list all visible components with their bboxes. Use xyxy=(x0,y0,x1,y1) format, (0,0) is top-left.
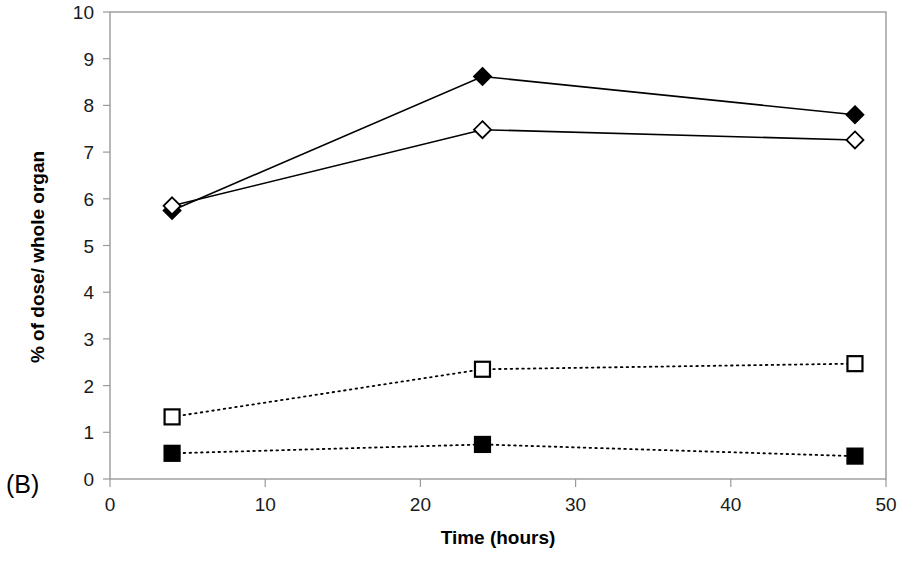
y-tick-label: 8 xyxy=(83,95,94,116)
y-tick-label: 10 xyxy=(73,2,94,23)
x-tick-label: 30 xyxy=(565,494,586,515)
marker-diamond-filled xyxy=(846,106,863,123)
marker-square-filled xyxy=(165,446,180,461)
series-line-open-square xyxy=(172,364,855,417)
series-line-open-diamond xyxy=(172,130,855,206)
marker-square-open xyxy=(847,356,862,371)
chart-figure: 01234567891001020304050 % of dose/ whole… xyxy=(0,0,908,576)
series-line-filled-square xyxy=(172,444,855,456)
y-tick-label: 0 xyxy=(83,469,94,490)
marker-square-filled xyxy=(475,437,490,452)
series-line-filled-diamond xyxy=(172,76,855,210)
marker-diamond-filled xyxy=(474,68,491,85)
x-tick-label: 50 xyxy=(875,494,896,515)
marker-square-open xyxy=(475,362,490,377)
y-axis-label: % of dose/ whole organ xyxy=(27,127,49,387)
y-tick-label: 1 xyxy=(83,422,94,443)
marker-diamond-open xyxy=(846,131,863,148)
y-tick-label: 9 xyxy=(83,49,94,70)
line-chart-plot: 01234567891001020304050 xyxy=(0,0,908,576)
y-tick-label: 4 xyxy=(83,282,94,303)
marker-square-filled xyxy=(847,449,862,464)
y-tick-label: 5 xyxy=(83,236,94,257)
plot-frame xyxy=(110,12,886,479)
x-tick-label: 40 xyxy=(720,494,741,515)
y-tick-label: 6 xyxy=(83,189,94,210)
marker-square-open xyxy=(165,409,180,424)
y-tick-label: 3 xyxy=(83,329,94,350)
x-tick-label: 20 xyxy=(410,494,431,515)
x-tick-label: 0 xyxy=(105,494,116,515)
x-tick-label: 10 xyxy=(255,494,276,515)
x-axis-label: Time (hours) xyxy=(110,527,886,549)
marker-diamond-open xyxy=(474,121,491,138)
y-tick-label: 2 xyxy=(83,376,94,397)
panel-label: (B) xyxy=(6,470,39,499)
y-tick-label: 7 xyxy=(83,142,94,163)
